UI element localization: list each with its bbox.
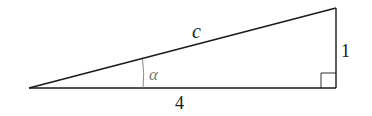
hypotenuse-side bbox=[29, 8, 336, 88]
right-angle-marker bbox=[321, 73, 336, 88]
angle-label: α bbox=[149, 65, 159, 84]
opposite-label: 1 bbox=[341, 41, 350, 61]
angle-arc bbox=[143, 59, 144, 88]
right-triangle-diagram: c 1 4 α bbox=[0, 0, 372, 116]
hypotenuse-label: c bbox=[192, 20, 201, 42]
adjacent-label: 4 bbox=[175, 93, 184, 113]
